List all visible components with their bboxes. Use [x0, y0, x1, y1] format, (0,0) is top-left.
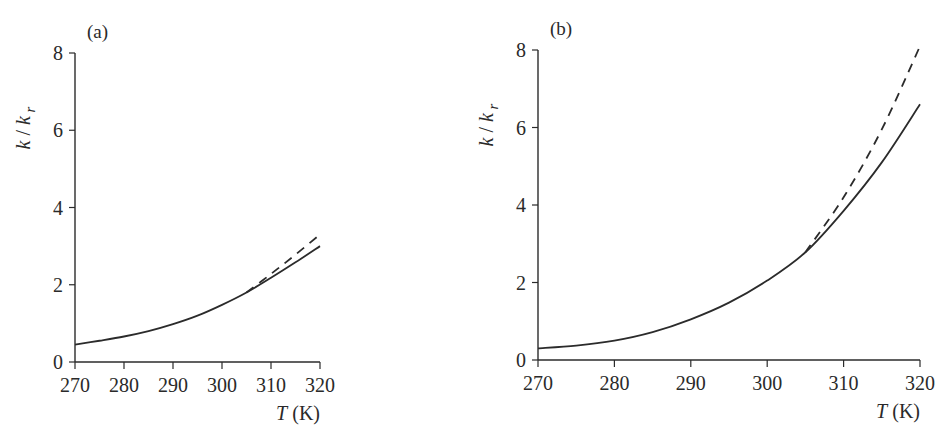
x-tick-label: 280 [599, 372, 629, 394]
dashed-curve [247, 235, 321, 293]
x-tick-label: 310 [829, 372, 859, 394]
x-tick-label: 290 [676, 372, 706, 394]
x-tick-label: 300 [752, 372, 782, 394]
y-tick-label: 4 [53, 197, 63, 219]
y-tick-label: 2 [53, 274, 63, 296]
y-tick-label: 2 [516, 272, 526, 294]
figure-canvas: 02468270280290300310320(a)k / k rT (K) 0… [0, 0, 952, 444]
x-tick-label: 280 [109, 374, 139, 396]
y-tick-label: 4 [516, 194, 526, 216]
y-axis-title: k / k r [475, 103, 501, 146]
panel-b: 02468270280290300310320(b)k / k rT (K) [475, 18, 935, 423]
x-axis-title: T (K) [876, 400, 920, 423]
dashed-curve [805, 46, 920, 252]
panel-label: (b) [550, 18, 572, 40]
x-tick-label: 320 [905, 372, 935, 394]
y-tick-label: 6 [516, 117, 526, 139]
solid-curve [75, 246, 320, 344]
y-tick-label: 8 [53, 42, 63, 64]
panel-label: (a) [87, 21, 108, 43]
y-tick-label: 6 [53, 119, 63, 141]
y-tick-label: 0 [53, 351, 63, 373]
y-tick-label: 8 [516, 39, 526, 61]
panel-a: 02468270280290300310320(a)k / k rT (K) [12, 21, 335, 425]
x-tick-label: 270 [60, 374, 90, 396]
x-tick-label: 300 [207, 374, 237, 396]
y-tick-label: 0 [516, 349, 526, 371]
x-tick-label: 320 [305, 374, 335, 396]
x-tick-label: 290 [158, 374, 188, 396]
x-axis-title: T (K) [276, 402, 320, 425]
y-axis-title: k / k r [12, 106, 38, 149]
x-tick-label: 270 [523, 372, 553, 394]
x-tick-label: 310 [256, 374, 286, 396]
solid-curve [538, 104, 920, 348]
